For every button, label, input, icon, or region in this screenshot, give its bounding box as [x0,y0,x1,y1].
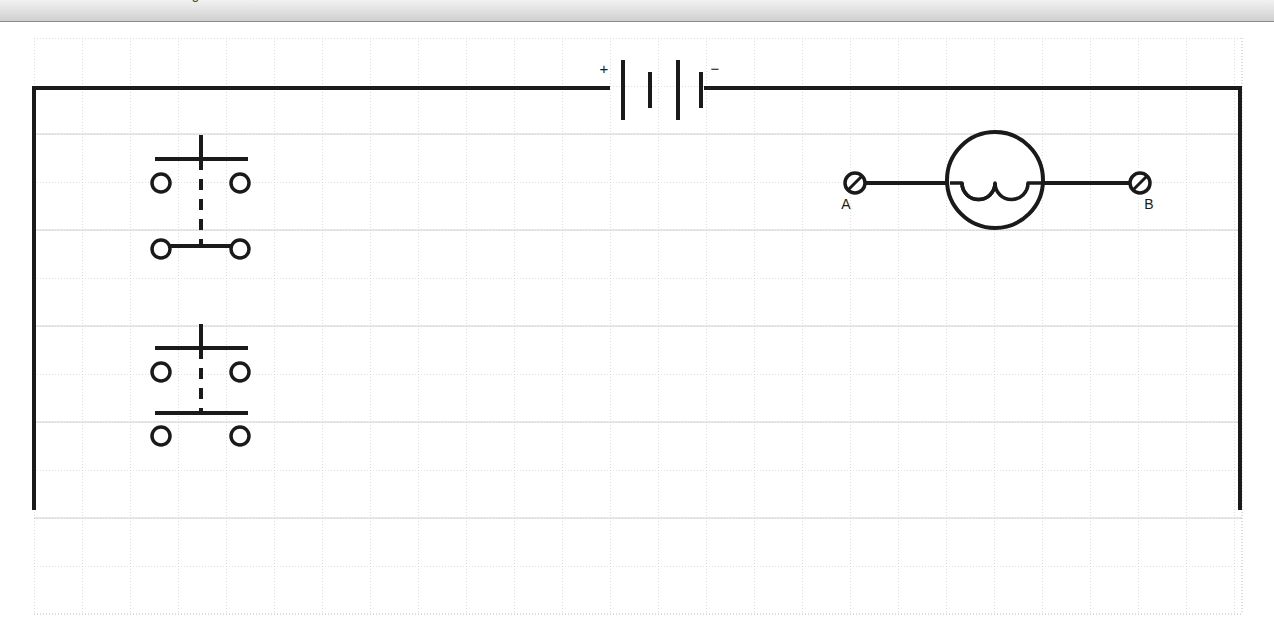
lamp-envelope[interactable] [947,132,1043,228]
terminal-a-label: A [841,196,851,212]
battery-plus-label: + [600,60,609,77]
battery-minus-label: − [711,60,720,77]
terminal-b-label: B [1144,196,1153,212]
switch-lower-contact-top-left[interactable] [152,363,170,381]
switch-lower-contact-top-right[interactable] [231,363,249,381]
lamp-symbol[interactable] [947,132,1043,228]
switch-upper-contact-top-right[interactable] [231,174,249,192]
switch-lower-contact-bottom-right[interactable] [231,427,249,445]
toolbar-strip[interactable]: Drawing [0,0,1274,22]
app-root: Drawing [0,0,1274,637]
diagram-canvas[interactable]: + − A B [0,22,1274,637]
switch-upper-contact-bottom-left[interactable] [152,240,170,258]
switch-lower-contact-bottom-left[interactable] [152,427,170,445]
toolbar-clipped-label: Drawing [150,0,199,2]
grid-layer [34,38,1242,614]
circuit-diagram-svg[interactable]: + − A B [0,22,1274,637]
switch-upper-contact-top-left[interactable] [152,174,170,192]
switch-upper-contact-bottom-right[interactable] [231,240,249,258]
